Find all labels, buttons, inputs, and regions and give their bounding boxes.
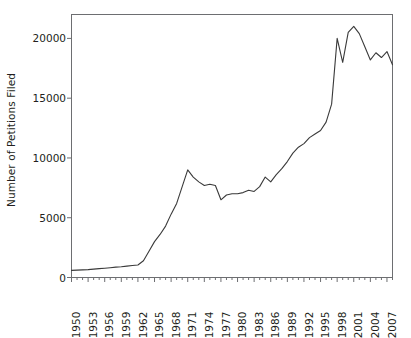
x-axis-ticks — [72, 278, 393, 283]
data-series-line — [72, 26, 393, 270]
y-axis-ticks — [67, 38, 72, 277]
